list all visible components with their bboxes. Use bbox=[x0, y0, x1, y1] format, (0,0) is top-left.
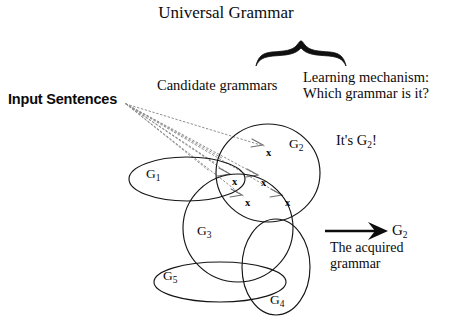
result-grammar-base: G bbox=[392, 222, 403, 238]
set-label-G5: G5 bbox=[163, 269, 178, 285]
candidate-grammars-label: Candidate grammars bbox=[157, 78, 277, 94]
set-label-G3: G3 bbox=[197, 224, 212, 240]
learning-mechanism-line2: Which grammar is it? bbox=[303, 86, 429, 102]
acquired-grammar-line2: grammar bbox=[330, 256, 381, 271]
set-label-base-G5: G bbox=[163, 268, 173, 283]
diagram-vector-layer bbox=[0, 0, 452, 329]
set-label-base-G1: G bbox=[146, 166, 156, 181]
learning-mechanism-line1: Learning mechanism: bbox=[303, 70, 429, 86]
set-label-sub-G4: 4 bbox=[280, 299, 285, 309]
set-label-sub-G3: 3 bbox=[207, 230, 212, 240]
its-g2-callout: It's G2! bbox=[336, 133, 377, 150]
set-label-G4: G4 bbox=[270, 293, 285, 309]
set-outline-G2 bbox=[216, 124, 320, 222]
sentence-x-1: x bbox=[266, 147, 271, 158]
set-label-G1: G1 bbox=[146, 167, 161, 183]
result-grammar-subscript: 2 bbox=[403, 230, 408, 240]
ray-arrowheads bbox=[218, 139, 282, 197]
acquired-grammar-line1: The acquired bbox=[330, 240, 403, 255]
input-sentences-label: Input Sentences bbox=[8, 92, 117, 108]
result-grammar-label: G2 bbox=[392, 222, 408, 240]
sentence-x-3: x bbox=[261, 177, 266, 188]
set-label-sub-G5: 5 bbox=[173, 275, 178, 285]
its-g2-exclaim: ! bbox=[372, 132, 377, 148]
sentence-x-2: x bbox=[232, 176, 237, 187]
sentence-x-4: x bbox=[245, 197, 250, 208]
set-label-G2: G2 bbox=[289, 137, 304, 153]
diagram-canvas: Universal Grammar Candidate grammars Lea… bbox=[0, 0, 452, 329]
set-label-base-G3: G bbox=[197, 223, 207, 238]
set-label-base-G4: G bbox=[270, 292, 280, 307]
set-label-base-G2: G bbox=[289, 136, 299, 151]
set-label-sub-G1: 1 bbox=[156, 173, 161, 183]
sentence-x-5: x bbox=[285, 197, 290, 208]
page-title: Universal Grammar bbox=[0, 4, 452, 22]
set-label-sub-G2: 2 bbox=[299, 143, 304, 153]
universal-grammar-brace bbox=[256, 41, 346, 66]
its-g2-text: It's G bbox=[336, 132, 367, 148]
acquired-grammar-arrow bbox=[325, 222, 388, 240]
